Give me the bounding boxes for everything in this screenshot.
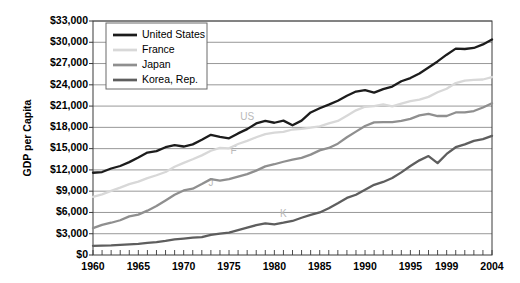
- y-axis-tick-label: $30,000: [50, 35, 88, 47]
- chart-canvas: $0$3,000$6,000$9,000$12,000$15,000$18,00…: [0, 0, 520, 283]
- y-axis-tick-label: $33,000: [50, 14, 88, 26]
- x-axis-tick-label: 1965: [127, 260, 151, 272]
- x-axis-tick-label: 1999: [435, 260, 459, 272]
- y-axis-tick-label: $12,000: [50, 163, 88, 175]
- x-axis-tick-label: 1990: [353, 260, 377, 272]
- x-axis-tick-label: 1980: [263, 260, 287, 272]
- x-axis-tick-label: 2004: [480, 260, 504, 272]
- y-axis-title: GDP per Capita: [21, 99, 33, 176]
- legend-label-4: Korea, Rep.: [142, 73, 198, 85]
- legend-label-2: France: [142, 43, 175, 55]
- x-axis-tick-label: 1960: [81, 260, 105, 272]
- series-annotation: K: [280, 208, 287, 219]
- y-axis-tick-label: $15,000: [50, 141, 88, 153]
- y-axis-tick-label: $0: [76, 248, 88, 260]
- x-axis-tick-label: 1985: [308, 260, 332, 272]
- x-axis-tick-label: 1975: [217, 260, 241, 272]
- y-axis-tick-label: $6,000: [56, 205, 88, 217]
- series-annotation: US: [240, 111, 254, 122]
- y-axis-tick-label: $3,000: [56, 227, 88, 239]
- y-axis-tick-label: $9,000: [56, 184, 88, 196]
- legend-label-1: United States: [142, 28, 205, 40]
- legend-label-3: Japan: [142, 58, 171, 70]
- y-axis-tick-label: $21,000: [50, 99, 88, 111]
- y-axis-tick-label: $18,000: [50, 120, 88, 132]
- y-axis-tick-label: $27,000: [50, 56, 88, 68]
- y-axis-tick-label: $24,000: [50, 78, 88, 90]
- x-axis-tick-label: 1970: [172, 260, 196, 272]
- chart-legend: United StatesFranceJapanKorea, Rep.: [106, 23, 207, 89]
- gdp-per-capita-line-chart: $0$3,000$6,000$9,000$12,000$15,000$18,00…: [0, 0, 520, 283]
- x-axis-tick-label: 1995: [399, 260, 423, 272]
